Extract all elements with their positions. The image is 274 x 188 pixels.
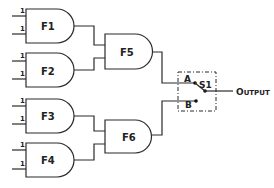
f2-to-f5-wire: [74, 58, 105, 70]
output-label: OUTPUT: [236, 87, 270, 97]
f4-to-f6-wire: [74, 144, 105, 160]
f5-label: F5: [120, 47, 134, 58]
f2-input-2-label: 1: [20, 70, 25, 78]
f4-input-1-label: 1: [20, 141, 25, 149]
f3-to-f6-wire: [74, 116, 105, 131]
f1-input-2-label: 1: [20, 25, 25, 33]
switch-label: S1: [199, 80, 212, 90]
terminal-b-dot: [194, 99, 198, 103]
gate-f5: F5: [105, 34, 153, 69]
f2-label: F2: [41, 66, 55, 77]
f4-input-2-label: 1: [20, 160, 25, 168]
logic-diagram: 1 1 F1 1 1 F2 F5 1 1 F3 1 1 F4: [0, 0, 274, 188]
f3-label: F3: [41, 111, 55, 122]
f3-input-2-label: 1: [20, 115, 25, 123]
f1-to-f5-wire: [74, 26, 105, 45]
f1-label: F1: [41, 21, 55, 32]
gate-f4: 1 1 F4: [12, 141, 74, 177]
f3-input-1-label: 1: [20, 97, 25, 105]
gate-f6: F6: [105, 120, 152, 153]
terminal-a-label: A: [184, 74, 191, 84]
gate-f2: 1 1 F2: [12, 52, 74, 87]
f1-input-1-label: 1: [20, 7, 25, 15]
f2-input-1-label: 1: [20, 52, 25, 60]
f4-label: F4: [41, 155, 55, 166]
gate-f1: 1 1 F1: [12, 7, 74, 43]
gate-f3: 1 1 F3: [12, 97, 74, 133]
terminal-b-label: B: [185, 100, 192, 110]
f6-label: F6: [122, 132, 136, 143]
